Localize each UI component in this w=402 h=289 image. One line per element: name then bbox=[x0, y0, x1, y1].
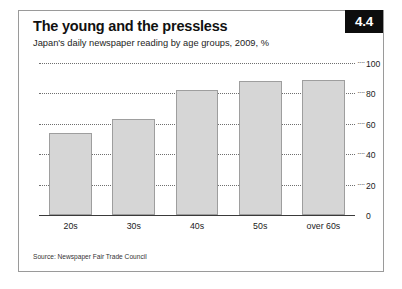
chart-bars: 20s30s40s50sover 60s bbox=[39, 63, 355, 215]
page-title: The young and the pressless bbox=[33, 18, 227, 34]
y-axis-tick-label: ····60 bbox=[357, 118, 391, 130]
x-axis-tick-label: 50s bbox=[225, 221, 296, 231]
chart-plot-area: 0····20····40····60····80····100 20s30s4… bbox=[39, 63, 355, 215]
bar-group: 50s bbox=[239, 63, 282, 215]
y-axis-tick-value: 100 bbox=[366, 59, 380, 69]
bar-over-60s bbox=[302, 80, 345, 215]
tick-mark-icon: ···· bbox=[357, 148, 366, 158]
y-axis-tick-value: 20 bbox=[366, 181, 376, 191]
bar-30s bbox=[112, 119, 155, 215]
tick-mark-icon bbox=[357, 209, 366, 219]
bar-group: 30s bbox=[112, 63, 155, 215]
bar-group: over 60s bbox=[302, 63, 345, 215]
y-axis-tick-value: 40 bbox=[366, 150, 376, 160]
y-axis-tick-label: ····80 bbox=[357, 87, 391, 99]
x-axis-tick-label: 20s bbox=[35, 221, 106, 231]
y-axis-tick-value: 80 bbox=[366, 89, 376, 99]
figure-header: The young and the pressless Japan's dail… bbox=[19, 11, 383, 59]
bar-20s bbox=[49, 133, 92, 215]
figure-number-badge: 4.4 bbox=[345, 10, 383, 33]
bar-40s bbox=[176, 90, 219, 215]
bar-group: 20s bbox=[49, 63, 92, 215]
y-axis-tick-label: ····100 bbox=[357, 57, 391, 69]
x-axis-tick-label: over 60s bbox=[288, 221, 359, 231]
tick-mark-icon: ···· bbox=[357, 57, 366, 67]
y-axis-tick-label: ····20 bbox=[357, 179, 391, 191]
y-axis-tick-value: 0 bbox=[366, 211, 371, 221]
gridline-0 bbox=[39, 215, 355, 216]
bar-50s bbox=[239, 81, 282, 215]
x-axis-tick-label: 40s bbox=[162, 221, 233, 231]
y-axis-tick-value: 60 bbox=[366, 120, 376, 130]
y-axis-tick-label: 0 bbox=[357, 209, 391, 221]
tick-mark-icon: ···· bbox=[357, 118, 366, 128]
figure-subtitle: Japan's daily newspaper reading by age g… bbox=[33, 38, 269, 48]
tick-mark-icon: ···· bbox=[357, 179, 366, 189]
y-axis-tick-label: ····40 bbox=[357, 148, 391, 160]
figure-frame: The young and the pressless Japan's dail… bbox=[18, 10, 384, 272]
tick-mark-icon: ···· bbox=[357, 87, 366, 97]
bar-group: 40s bbox=[176, 63, 219, 215]
figure-source: Source: Newspaper Fair Trade Council bbox=[33, 253, 147, 260]
x-axis-tick-label: 30s bbox=[98, 221, 169, 231]
